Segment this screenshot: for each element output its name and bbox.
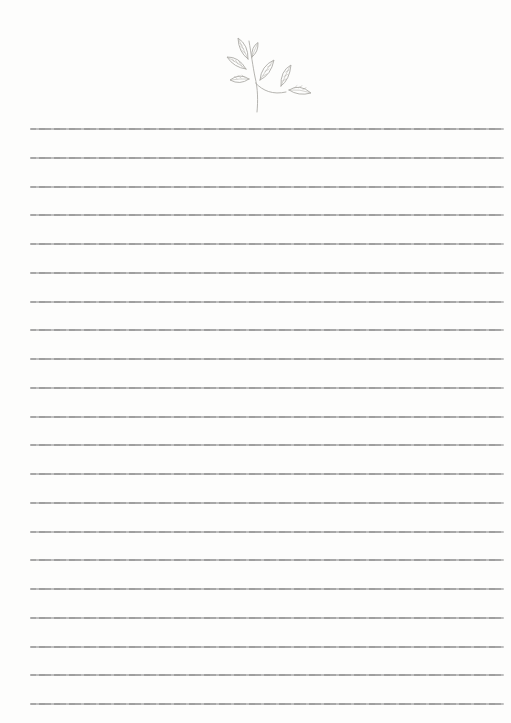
ruled-line [30,703,504,705]
ruled-line [30,329,504,331]
ruled-line [30,301,504,303]
ruled-line [30,559,504,561]
ruled-line [30,416,504,418]
ruled-line [30,358,504,360]
ruled-line [30,617,504,619]
ruled-line [30,588,504,590]
ruled-line [30,502,504,504]
ruled-line [30,128,504,130]
ruled-line [30,214,504,216]
ruled-line [30,272,504,274]
ruled-line [30,444,504,446]
ruled-line [30,243,504,245]
ruled-line [30,186,504,188]
ruled-line [30,157,504,159]
ruled-line [30,674,504,676]
ruled-line [30,531,504,533]
ruled-line [30,646,504,648]
journal-page [0,0,511,723]
ruled-line [30,387,504,389]
ruled-line [30,473,504,475]
writing-area[interactable] [0,0,511,723]
